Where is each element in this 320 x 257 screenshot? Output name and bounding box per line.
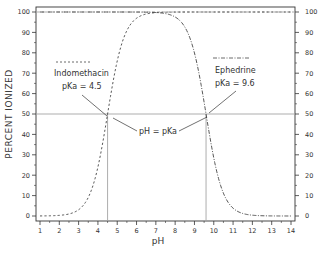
x-tick-label: 12 [248, 227, 256, 235]
y-tick-label: 100 [18, 8, 30, 16]
ph-pka-leader-left [113, 118, 137, 131]
x-tick-label: 7 [154, 227, 158, 235]
x-tick-label: 3 [77, 227, 81, 235]
x-tick-label: 2 [57, 227, 61, 235]
ephedrine-pka-label: pKa = 9.6 [215, 79, 255, 88]
ephedrine-label: Ephedrine [215, 66, 256, 75]
y-tick-label-right: 80 [305, 49, 313, 57]
x-tick-label: 9 [192, 227, 196, 235]
indomethacin-label: Indomethacin [54, 69, 109, 78]
y-tick-label-right: 50 [305, 110, 313, 118]
x-tick-label: 11 [229, 227, 237, 235]
y-axis-left: 0102030405060708090100 [18, 8, 36, 220]
y-tick-label: 50 [22, 110, 30, 118]
x-axis: 1234567891011121314 [38, 221, 295, 235]
y-tick-label-right: 20 [305, 172, 313, 180]
ph-equals-pka-label: pH = pKa [139, 127, 177, 136]
reference-lines [37, 12, 294, 220]
x-tick-label: 10 [210, 227, 218, 235]
y-tick-label-right: 70 [305, 70, 313, 78]
y-tick-label: 30 [22, 151, 30, 159]
y-tick-label-right: 60 [305, 90, 313, 98]
x-tick-label: 1 [38, 227, 42, 235]
y-tick-label: 80 [22, 49, 30, 57]
x-axis-label: pH [152, 236, 164, 246]
y-tick-label-right: 40 [305, 131, 313, 139]
y-tick-label: 40 [22, 131, 30, 139]
ephedrine-leader-line [209, 91, 236, 113]
x-tick-label: 8 [173, 227, 177, 235]
y-tick-label-right: 100 [305, 8, 317, 16]
x-tick-label: 5 [115, 227, 119, 235]
y-tick-label: 70 [22, 70, 30, 78]
x-tick-label: 4 [96, 227, 100, 235]
x-tick-label: 14 [287, 227, 295, 235]
y-axis-label: PERCENT IONIZED [4, 69, 14, 158]
ph-pka-leader-right [179, 117, 207, 131]
y-tick-label: 60 [22, 90, 30, 98]
y-tick-label-right: 30 [305, 151, 313, 159]
x-tick-label: 6 [134, 227, 138, 235]
y-tick-label-right: 10 [305, 192, 313, 200]
indomethacin-leader-line [82, 95, 107, 116]
y-tick-label: 90 [22, 29, 30, 37]
y-tick-label: 0 [26, 212, 30, 220]
y-tick-label: 10 [22, 192, 30, 200]
y-tick-label: 20 [22, 172, 30, 180]
x-tick-label: 13 [268, 227, 276, 235]
y-tick-label-right: 90 [305, 29, 313, 37]
indomethacin-pka-label: pKa = 4.5 [62, 82, 102, 91]
y-tick-label-right: 0 [305, 212, 309, 220]
chart: 0102030405060708090100 01020304050607080… [0, 0, 320, 257]
y-axis-right: 0102030405060708090100 [295, 8, 317, 220]
